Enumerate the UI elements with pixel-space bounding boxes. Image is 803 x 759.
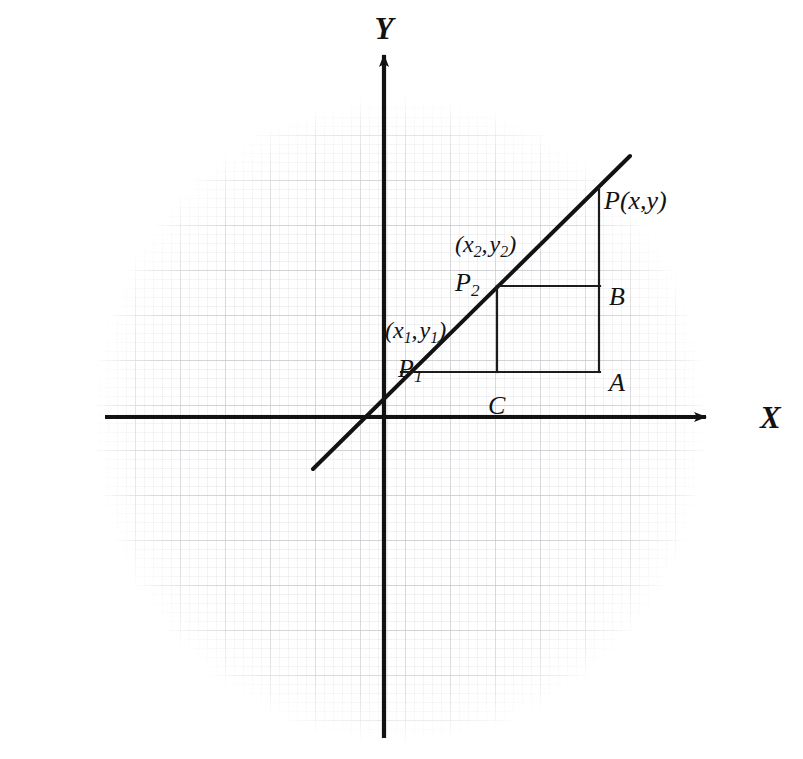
vertex-b-label: B (609, 284, 625, 310)
point-p1-label: P1 (398, 356, 422, 386)
coordinate-geometry-figure: Y X (x1, y1) P1 (x2, y2) P2 P(x,y) A B C (0, 0, 803, 759)
vertex-c-label: C (488, 393, 505, 419)
point-p2-coordinates-label: (x2, y2) (455, 232, 516, 260)
vertex-a-label: A (609, 370, 625, 396)
point-p-label: P(x,y) (604, 188, 667, 214)
point-p1-coordinates-label: (x1, y1) (385, 318, 446, 346)
y-axis-label: Y (375, 13, 394, 44)
point-p2-label: P2 (455, 270, 479, 300)
x-axis-label: X (760, 402, 781, 433)
